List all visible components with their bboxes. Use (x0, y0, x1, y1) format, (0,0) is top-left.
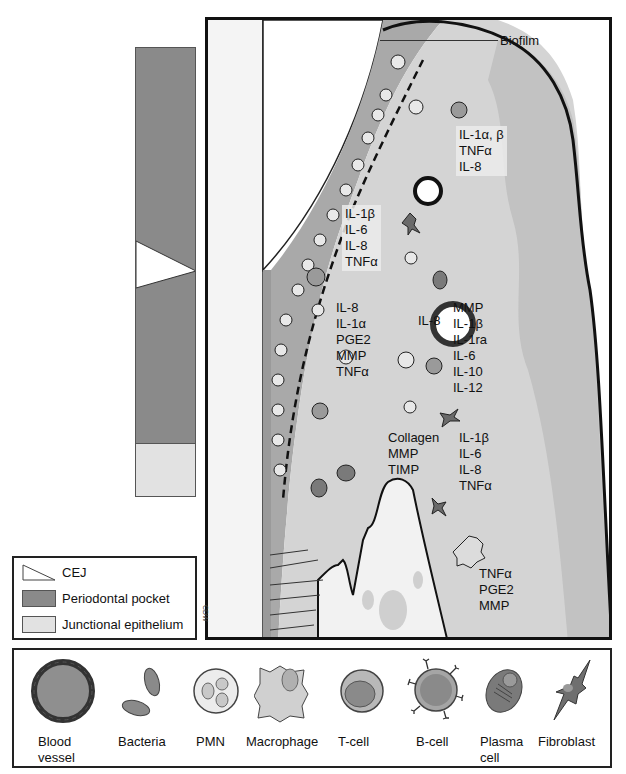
cytokine-group-gingival-top: IL-1α, β TNFα IL-8 (456, 126, 507, 176)
t-cell-icon (338, 658, 388, 724)
junctional-swatch (22, 616, 56, 633)
fibroblast-icon (544, 658, 594, 724)
periodontal-illustration (205, 17, 612, 640)
legend-item-junctional-epithelium: Junctional epithelium (22, 614, 183, 634)
legend-cell-pmn: PMN (192, 658, 242, 724)
legend-cell-bacteria: Bacteria (120, 658, 170, 724)
plasma-cell-icon (480, 658, 530, 724)
biofilm-label: Biofilm (500, 33, 539, 48)
legend-item-periodontal-pocket: Periodontal pocket (22, 588, 170, 608)
cej-triangle-icon (136, 48, 196, 497)
cytokine-group-fibroblast-matrix: Collagen MMP TIMP (388, 430, 439, 478)
cytokine-group-pocket-lower: IL-8 IL-1α PGE2 MMP TNFα (336, 300, 371, 380)
cej-triangle-icon (22, 564, 56, 581)
legend-cell-plasma-cell: Plasma cell (480, 658, 530, 724)
macrophage-icon (254, 658, 314, 724)
artist-signature: CDW (202, 605, 209, 622)
blood-vessel-cytokine-label: IL-8 (418, 313, 440, 329)
cell-type-legend: Blood vessel Bacteria PMN Macrophage (12, 648, 612, 768)
cytokine-group-macrophage: TNFα PGE2 MMP (479, 566, 514, 614)
biofilm-leader-line (380, 40, 498, 41)
blood-vessel-icon (30, 658, 96, 724)
legend-cell-fibroblast: Fibroblast (544, 658, 594, 724)
legend-cell-b-cell: B-cell (406, 658, 466, 722)
b-cell-icon (406, 652, 466, 722)
legend-cell-blood-vessel: Blood vessel (30, 658, 96, 724)
cytokine-group-pocket-upper: IL-1β IL-6 IL-8 TNFα (342, 205, 381, 271)
region-legend: CEJ Periodontal pocket Junctional epithe… (12, 556, 197, 640)
bacteria-icon (120, 658, 170, 724)
cytokine-group-connective-mid: MMP IL-1β IL-1ra IL-6 IL-10 IL-12 (453, 300, 487, 396)
depth-bar (135, 47, 196, 497)
pocket-swatch (22, 590, 56, 607)
legend-item-cej: CEJ (22, 562, 87, 582)
gingiva-scene (208, 20, 612, 640)
legend-cell-t-cell: T-cell (338, 658, 388, 724)
legend-cell-macrophage: Macrophage (254, 658, 314, 724)
cytokine-group-fibroblast: IL-1β IL-6 IL-8 TNFα (459, 430, 492, 494)
pmn-icon (192, 658, 242, 724)
